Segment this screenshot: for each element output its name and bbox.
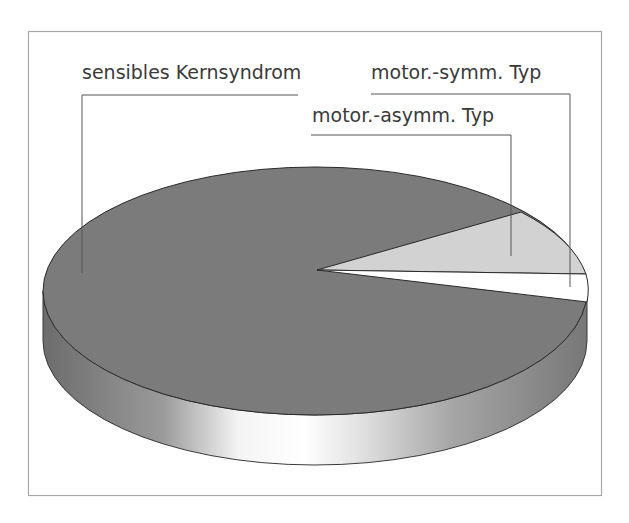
- pie-chart: sensibles Kernsyndrom motor.-symm. Typ m…: [0, 0, 629, 523]
- label-motor-symm-typ: motor.-symm. Typ: [371, 61, 541, 83]
- label-sensibles-kernsyndrom: sensibles Kernsyndrom: [82, 61, 301, 83]
- label-motor-asymm-typ: motor.-asymm. Typ: [312, 104, 494, 126]
